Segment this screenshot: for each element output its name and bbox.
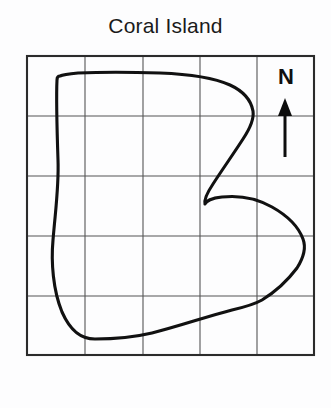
- compass-arrow: [278, 98, 292, 157]
- compass-north-label: N: [262, 64, 310, 90]
- map-canvas: [0, 0, 331, 408]
- island-coastline: [52, 72, 304, 339]
- compass-arrow-head: [278, 98, 292, 116]
- map-figure: Coral Island N: [0, 0, 331, 408]
